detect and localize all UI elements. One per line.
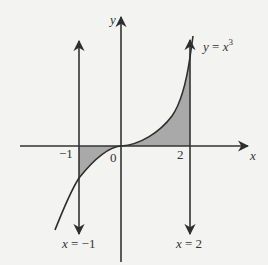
cubic-area-diagram: y x 0 −1 2 y = x3 x = −1 x = 2 xyxy=(0,0,268,265)
x-axis-label: x xyxy=(249,148,256,163)
y-axis-label: y xyxy=(108,12,116,27)
line-label-2: x = 2 xyxy=(175,236,202,251)
curve-label-mid: = xyxy=(209,39,223,54)
tick-label-neg1: −1 xyxy=(59,146,73,161)
curve-label: y = x3 xyxy=(201,37,233,54)
origin-label: 0 xyxy=(110,150,117,165)
curve-label-exp: 3 xyxy=(228,37,233,47)
line-label-neg1: x = −1 xyxy=(61,236,95,251)
tick-label-2: 2 xyxy=(177,147,184,162)
